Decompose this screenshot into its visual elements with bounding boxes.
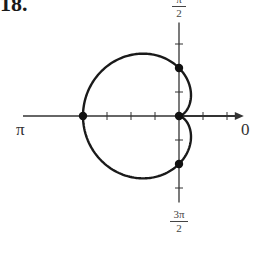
label-pi-over-2-denominator: 2 (172, 7, 186, 19)
label-3pi-over-2-denominator: 2 (170, 222, 188, 234)
label-pi: π (16, 120, 25, 140)
axes (23, 22, 244, 202)
label-3pi-over-2: 3π 2 (170, 209, 188, 234)
label-zero: 0 (241, 120, 250, 140)
label-3pi-over-2-numerator: 3π (170, 209, 188, 222)
point-marker (175, 160, 183, 168)
label-pi-over-2: π 2 (172, 0, 186, 19)
label-pi-over-2-numerator: π (172, 0, 186, 7)
point-marker (175, 112, 183, 120)
point-marker (79, 112, 87, 120)
point-marker (175, 64, 183, 72)
polar-plot (0, 0, 262, 262)
